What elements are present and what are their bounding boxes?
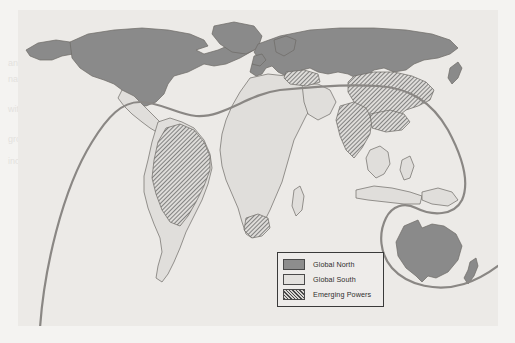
scanned-page: and cultural nations. The with these gro…: [0, 0, 515, 343]
legend-item-global-north: Global North: [283, 257, 378, 272]
legend-item-global-south: Global South: [283, 272, 378, 287]
legend-swatch-global-north: [283, 259, 305, 270]
legend-item-emerging-powers: Emerging Powers: [283, 287, 378, 302]
legend-label-global-south: Global South: [313, 276, 356, 283]
world-map-graphic: [18, 10, 498, 326]
legend-swatch-global-south: [283, 274, 305, 285]
map-figure: Global North Global South Emerging Power…: [18, 10, 498, 326]
legend-label-global-north: Global North: [313, 261, 355, 268]
legend-label-emerging-powers: Emerging Powers: [313, 291, 371, 298]
map-legend: Global North Global South Emerging Power…: [277, 252, 384, 307]
legend-swatch-emerging-powers: [283, 289, 305, 300]
